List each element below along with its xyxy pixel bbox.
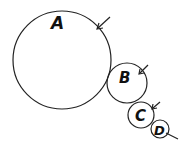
circle-b-group: B <box>107 63 148 103</box>
arrow-c-icon <box>152 102 160 109</box>
circle-c-label: C <box>135 107 146 125</box>
circle-a-group: A <box>13 11 111 109</box>
circle-a-label: A <box>49 13 64 33</box>
diagram-canvas: A B C D <box>0 0 190 151</box>
circle-d-label: D <box>154 123 165 138</box>
arrow-b-icon <box>139 65 148 74</box>
arrow-a-icon <box>97 17 110 29</box>
circle-b-label: B <box>119 69 130 87</box>
arrow-d-icon <box>166 133 178 139</box>
circle-d-group: D <box>151 120 178 139</box>
